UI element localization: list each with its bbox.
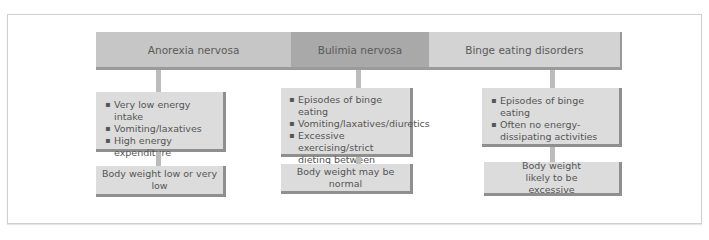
outcome-text: Body weight likely to be excessive — [514, 160, 589, 196]
header-bar: Anorexia nervosa Bulimia nervosa Binge e… — [96, 32, 622, 70]
characteristic-item: Vomiting/laxatives/diuretics — [289, 118, 404, 130]
header-label: Anorexia nervosa — [148, 44, 240, 56]
outcome-box-bulimia: Body weight may be normal — [281, 164, 413, 194]
header-label: Bulimia nervosa — [318, 44, 403, 56]
characteristic-item: Very low energy intake — [105, 99, 217, 123]
characteristic-item: Episodes of binge eating — [289, 94, 404, 118]
connector-line — [156, 70, 161, 92]
outcome-box-anorexia: Body weight low or very low — [96, 166, 226, 197]
characteristic-item: High energy expenditure — [105, 135, 217, 159]
characteristics-box-anorexia: Very low energy intake Vomiting/laxative… — [96, 92, 226, 152]
connector-line — [356, 70, 361, 88]
connector-line — [156, 152, 161, 166]
header-binge-eating: Binge eating disorders — [429, 32, 622, 67]
connector-line — [550, 70, 555, 88]
outcome-text: Body weight low or very low — [96, 168, 223, 192]
outcome-text: Body weight may be normal — [281, 166, 410, 190]
header-bulimia: Bulimia nervosa — [291, 32, 428, 67]
characteristics-box-binge-eating: Episodes of binge eating Often no energy… — [482, 88, 622, 147]
characteristic-item: Often no energy-dissipating activities — [491, 119, 613, 143]
characteristics-box-bulimia: Episodes of binge eating Vomiting/laxati… — [281, 88, 413, 157]
outcome-box-binge-eating: Body weight likely to be excessive — [484, 162, 622, 196]
characteristic-item: Episodes of binge eating — [491, 95, 613, 119]
header-anorexia: Anorexia nervosa — [96, 32, 291, 67]
characteristic-item: Vomiting/laxatives — [105, 123, 217, 135]
connector-line — [356, 157, 361, 164]
header-label: Binge eating disorders — [465, 44, 583, 56]
